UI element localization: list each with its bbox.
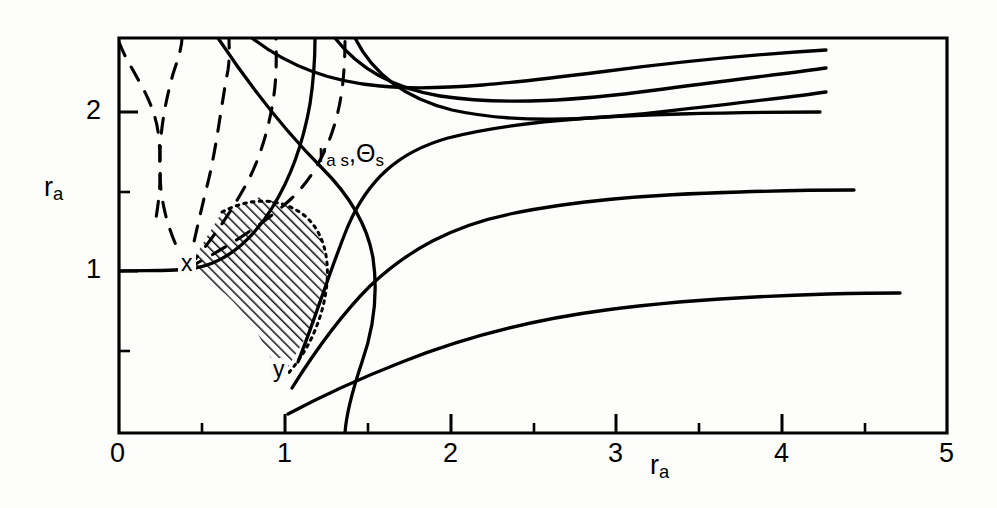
point-label-y: y: [270, 358, 288, 381]
y-axis-ticks: [119, 112, 138, 351]
x-axis-ticks: [202, 414, 865, 433]
y-tick-label-1: 1: [86, 254, 101, 285]
x-tick-label-1: 1: [277, 438, 292, 469]
x-tick-label-4: 4: [774, 438, 789, 469]
outflow-curve-6: [288, 293, 900, 414]
y-axis-title: ra: [44, 172, 63, 205]
x-tick-label-5: 5: [939, 438, 954, 469]
y-tick-label-2: 2: [86, 95, 101, 126]
x-tick-label-0: 0: [110, 438, 125, 469]
x-tick-label-3: 3: [608, 438, 623, 469]
separatrix-annotation: ra s,Θs: [318, 139, 384, 171]
figure-container: 0 1 2 3 4 5 1 2 ra ra ra s,Θs x y: [0, 0, 997, 508]
x-axis-title: ra: [650, 450, 669, 483]
plot-canvas: [0, 0, 997, 508]
shaded-region: [188, 197, 328, 380]
inflow-dashed-2: [160, 38, 188, 268]
x-tick-label-2: 2: [443, 438, 458, 469]
point-label-x: x: [178, 252, 196, 275]
